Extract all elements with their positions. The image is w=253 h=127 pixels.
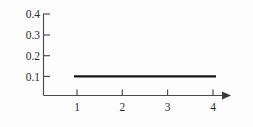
chart-container: 0.4 0.3 0.2 0.1 1 2 3 4: [0, 0, 253, 127]
x-tick-label-4: 4: [210, 101, 216, 113]
x-tick-label-1: 1: [74, 101, 80, 113]
x-tick-label-3: 3: [165, 101, 171, 113]
line-chart: 0.4 0.3 0.2 0.1 1 2 3 4: [0, 0, 253, 127]
y-tick-label-2: 0.2: [26, 50, 41, 62]
y-tick-label-1: 0.1: [26, 71, 41, 83]
y-tick-label-4: 0.4: [26, 8, 41, 20]
y-tick-label-3: 0.3: [26, 29, 41, 41]
x-tick-label-2: 2: [119, 101, 125, 113]
x-axis-arrow-icon: [222, 92, 231, 100]
